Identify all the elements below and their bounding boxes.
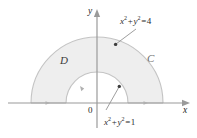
x-axis-label: x — [183, 106, 187, 116]
outer-circle-equation-label: x2+y2=4 — [120, 17, 151, 26]
outer-equation-leader-dot — [114, 43, 117, 46]
annulus-diagram-svg — [0, 0, 197, 138]
y-axis-label: y — [88, 7, 92, 17]
inner-circle-equation-label: x2+y2=1 — [104, 118, 135, 127]
y-axis-arrowhead — [94, 9, 100, 17]
inner-equation-leader-dot — [118, 85, 121, 88]
curve-label-c: C — [147, 53, 154, 64]
origin-label: 0 — [88, 106, 93, 115]
inner-equation-leader-line — [106, 87, 119, 110]
outer-equation-leader-line — [116, 29, 136, 44]
orientation-marker-inner-arc — [80, 86, 84, 91]
inner-eq-rhs: 1 — [131, 117, 136, 127]
figure-canvas: y x 0 D C x2+y2=4 x2+y2=1 — [0, 0, 197, 138]
region-label-d: D — [60, 55, 68, 66]
outer-eq-rhs: 4 — [147, 16, 152, 26]
